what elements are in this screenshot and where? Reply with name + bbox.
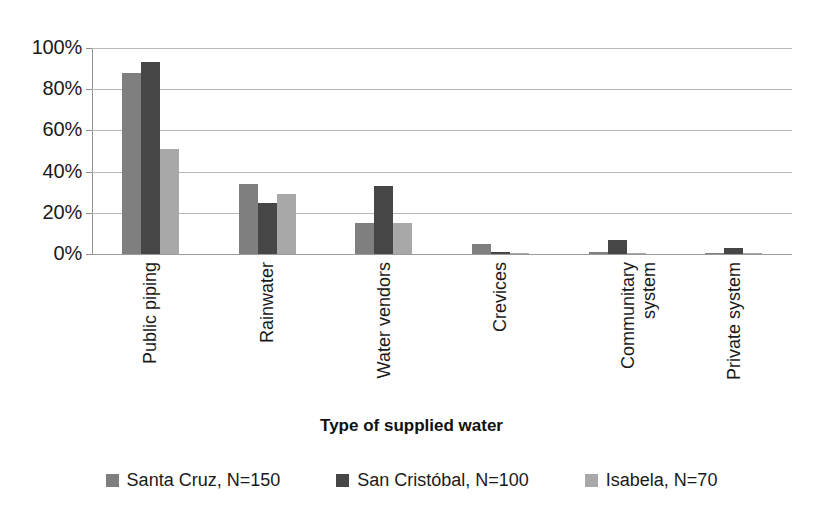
bar (472, 244, 491, 254)
legend-swatch-icon (336, 474, 349, 487)
x-axis-category-label: Public piping (140, 262, 161, 422)
bar-group (472, 48, 529, 254)
y-axis-tick-label: 100% (4, 37, 82, 57)
bar-group (122, 48, 179, 254)
y-axis-tick (86, 130, 92, 131)
x-axis-category-label: Crevices (490, 262, 511, 422)
bar (258, 203, 277, 255)
gridline (92, 130, 792, 131)
legend-item: Isabela, N=70 (585, 470, 718, 491)
y-axis-tick-label: 40% (4, 161, 82, 181)
bar (374, 186, 393, 254)
x-axis-category-label: Rainwater (257, 262, 278, 422)
legend-item: Santa Cruz, N=150 (106, 470, 281, 491)
x-axis-category-label: Private system (724, 262, 745, 422)
bar (510, 253, 529, 254)
legend-label: Santa Cruz, N=150 (127, 470, 281, 491)
legend-label: San Cristóbal, N=100 (357, 470, 529, 491)
bar (160, 149, 179, 254)
bar-group (589, 48, 646, 254)
x-axis-title: Type of supplied water (0, 416, 823, 436)
y-axis-tick (86, 48, 92, 49)
bar (122, 73, 141, 254)
legend-swatch-icon (585, 474, 598, 487)
y-axis-labels: 100%80%60%40%20%0% (0, 0, 82, 528)
bar-group (239, 48, 296, 254)
bar-group (705, 48, 762, 254)
bar (724, 248, 743, 254)
bar (355, 223, 374, 254)
y-axis-tick-label: 20% (4, 202, 82, 222)
y-axis-tick-label: 0% (4, 243, 82, 263)
y-axis-tick (86, 172, 92, 173)
bar-chart: 100%80%60%40%20%0% Public pipingRainwate… (0, 0, 823, 528)
gridline (92, 48, 792, 49)
bar (743, 253, 762, 254)
gridline (92, 213, 792, 214)
y-axis-tick-label: 60% (4, 119, 82, 139)
legend-label: Isabela, N=70 (606, 470, 718, 491)
bar (491, 252, 510, 254)
bar-group (355, 48, 412, 254)
plot-area (92, 48, 792, 254)
gridline (92, 254, 792, 255)
x-axis-category-label: Communitary system (618, 262, 660, 422)
y-axis-tick (86, 89, 92, 90)
bar (239, 184, 258, 254)
gridline (92, 89, 792, 90)
legend-swatch-icon (106, 474, 119, 487)
bar (589, 252, 608, 254)
chart-legend: Santa Cruz, N=150San Cristóbal, N=100Isa… (0, 470, 823, 491)
x-axis-category-label: Water vendors (374, 262, 395, 422)
bar (393, 223, 412, 254)
y-axis-tick (86, 213, 92, 214)
y-axis-tick (86, 254, 92, 255)
bar (608, 240, 627, 254)
gridline (92, 172, 792, 173)
legend-item: San Cristóbal, N=100 (336, 470, 529, 491)
bar (705, 253, 724, 254)
y-axis-tick-label: 80% (4, 78, 82, 98)
bar (627, 253, 646, 254)
bar (141, 62, 160, 254)
bar (277, 194, 296, 254)
